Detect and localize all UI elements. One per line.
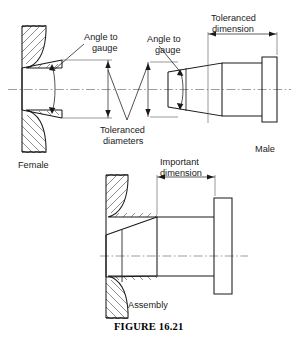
assembly-male-flange <box>214 198 232 294</box>
female-bore-upper-edge <box>22 60 62 68</box>
toleranced-dimension-annotation: Toleranced dimension <box>208 13 277 123</box>
angle-to-gauge-right-label-line2: gauge <box>155 45 181 55</box>
toleranced-diameters-label-line1: Toleranced <box>100 125 145 135</box>
important-dimension-label-line1: Important <box>160 157 199 167</box>
tol-dia-arrow-right-top <box>145 63 150 70</box>
female-top-break-wave <box>22 26 46 27</box>
toleranced-diameters-dimension: Toleranced diameters <box>62 60 178 146</box>
female-upper-hatch <box>10 10 80 80</box>
female-lower-hatch <box>10 98 80 168</box>
angle-to-gauge-right-label-line1: Angle to <box>147 34 181 44</box>
female-bore-lower-edge <box>22 110 62 118</box>
male-view: Angle to gauge Male <box>147 34 277 154</box>
tol-dia-arrow-left-top <box>105 61 110 68</box>
toleranced-dimension-label-line1: Toleranced <box>211 13 256 23</box>
toleranced-diameters-label-line2: diameters <box>103 136 144 146</box>
assembly-female-upper <box>94 160 164 230</box>
female-upper-body <box>10 10 80 80</box>
technical-drawing-svg: Angle to gauge Female Toleranced diamete <box>0 0 299 340</box>
assembly-view: Assembly <box>94 160 248 333</box>
angle-to-gauge-left-label-line2: gauge <box>92 43 118 53</box>
tol-dim-arrow-right <box>269 31 276 36</box>
assembly-male-taper-outline <box>106 217 157 277</box>
figure-container: Angle to gauge Female Toleranced diamete <box>0 0 299 340</box>
imp-dim-arrow-right <box>207 174 214 179</box>
toleranced-dimension-label-line2: dimension <box>212 24 254 34</box>
female-view-label: Female <box>18 160 49 170</box>
assembly-view-label: Assembly <box>128 300 168 310</box>
assembly-female-upper-hatch <box>94 160 164 230</box>
tol-dia-arrow-left-bottom <box>105 110 110 117</box>
assembly-female-bottom-break-wave <box>106 318 128 319</box>
figure-caption: FIGURE 16.21 <box>114 321 184 332</box>
female-angle-arc <box>52 66 55 112</box>
female-angle-leader <box>55 44 84 69</box>
female-bottom-break-wave <box>22 152 46 153</box>
male-view-label: Male <box>255 144 275 154</box>
assembly-female-top-break-wave <box>106 175 128 176</box>
female-view: Angle to gauge Female <box>10 10 118 170</box>
important-dimension-label-line2: dimension <box>160 168 202 178</box>
important-dimension-annotation: Important dimension <box>157 157 215 215</box>
angle-to-gauge-left-label-line1: Angle to <box>84 32 118 42</box>
tol-dia-arrow-right-bottom <box>145 109 150 116</box>
female-lower-body <box>10 98 80 168</box>
tol-dia-v-leader <box>108 70 146 120</box>
